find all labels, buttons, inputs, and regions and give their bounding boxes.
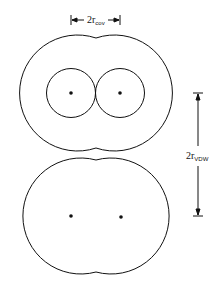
bottom-right-atom-nucleus [119,215,123,219]
cov-label: 2rcov [87,14,105,26]
vdw-label: 2rVDW [186,150,209,162]
diagram-canvas: 2rcov 2rVDW [0,0,224,291]
top-right-atom-nucleus [118,91,122,95]
vdw-label-subscript: VDW [194,156,208,162]
bottom-molecule [23,158,169,274]
bottom-left-atom-nucleus [69,214,73,218]
top-molecule [20,35,173,151]
vdw-dimension [193,93,203,216]
top-left-atom-nucleus [69,91,73,95]
cov-label-subscript: cov [95,20,104,26]
bottom-vdw-outline [23,158,169,274]
